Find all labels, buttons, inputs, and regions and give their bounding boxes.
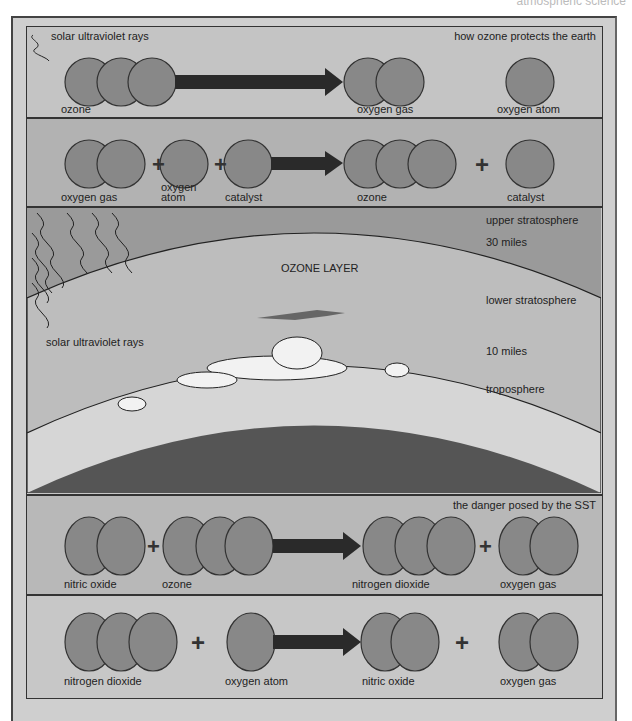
svg-text:10 miles: 10 miles (486, 345, 527, 357)
svg-text:how ozone protects the earth: how ozone protects the earth (454, 30, 596, 42)
svg-text:upper stratosphere: upper stratosphere (486, 214, 578, 226)
svg-text:ozone: ozone (61, 103, 91, 115)
svg-text:nitrogen dioxide: nitrogen dioxide (64, 675, 142, 687)
svg-text:+: + (191, 629, 205, 656)
svg-text:solar ultraviolet rays: solar ultraviolet rays (46, 336, 144, 348)
svg-text:+: + (475, 151, 489, 178)
svg-text:30 miles: 30 miles (486, 236, 527, 248)
panel-ozone-formation: + + + oxygen gas oxygen atom catalyst oz… (26, 118, 603, 207)
svg-text:OZONE LAYER: OZONE LAYER (281, 262, 358, 274)
svg-text:+: + (152, 152, 165, 177)
uv-ray-icon (32, 35, 49, 61)
arrow-icon (273, 539, 343, 553)
svg-text:nitric oxide: nitric oxide (64, 578, 117, 590)
svg-text:oxygen atom: oxygen atom (497, 103, 560, 115)
svg-text:ozone: ozone (357, 191, 387, 203)
svg-text:oxygen gas: oxygen gas (500, 578, 557, 590)
arrow-icon (271, 157, 325, 170)
arrow-icon (175, 75, 325, 89)
page-header: atmospheric science (517, 0, 626, 8)
reaction-diagram: solar ultraviolet rays how ozone protect… (27, 27, 601, 116)
atom-icon (506, 58, 554, 106)
svg-text:+: + (147, 534, 160, 559)
svg-text:oxygen gas: oxygen gas (500, 675, 557, 687)
svg-text:oxygen gas: oxygen gas (61, 191, 118, 203)
svg-text:+: + (455, 629, 469, 656)
svg-text:lower stratosphere: lower stratosphere (486, 294, 577, 306)
svg-text:nitrogen dioxide: nitrogen dioxide (352, 578, 430, 590)
svg-text:the danger posed by the SST: the danger posed by the SST (453, 499, 596, 511)
arrow-icon (273, 635, 343, 649)
svg-text:nitric oxide: nitric oxide (362, 675, 415, 687)
panel-ozone-protects: solar ultraviolet rays how ozone protect… (26, 26, 603, 118)
svg-text:troposphere: troposphere (486, 383, 545, 395)
svg-text:oxygen atom: oxygen atom (225, 675, 288, 687)
svg-text:atom: atom (161, 191, 185, 203)
panel-sst-danger: + + the danger posed by the SST nitric o… (26, 495, 603, 595)
panel-regeneration: + + nitrogen dioxide oxygen atom nitric … (26, 595, 603, 699)
svg-text:catalyst: catalyst (507, 191, 544, 203)
svg-text:catalyst: catalyst (225, 191, 262, 203)
svg-text:solar ultraviolet rays: solar ultraviolet rays (51, 30, 149, 42)
svg-text:ozone: ozone (162, 578, 192, 590)
panel-atmosphere: OZONE LAYER upper stratosphere 30 miles … (26, 207, 603, 495)
svg-text:+: + (479, 534, 492, 559)
svg-text:+: + (214, 152, 227, 177)
atom-icon (128, 58, 176, 106)
svg-text:oxygen gas: oxygen gas (357, 103, 414, 115)
